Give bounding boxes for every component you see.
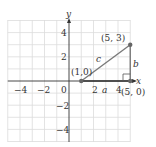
side-label-a: a	[102, 85, 107, 95]
y-tick-label: 4	[61, 28, 67, 38]
side-label-c: c	[96, 54, 101, 64]
point-5-0	[128, 79, 132, 83]
point-label-5-3: (5, 3)	[101, 33, 125, 43]
x-axis-label: x	[136, 76, 141, 86]
point-label-5-0: (5, 0)	[121, 87, 145, 97]
y-tick-label: −2	[56, 101, 69, 111]
coordinate-diagram: y x −4 −2 0 2 4 4 2 −2 −4 (1,0) (5, 3) (…	[0, 0, 156, 147]
point-1-0	[79, 79, 83, 83]
x-tick-label: 2	[92, 85, 98, 95]
y-tick-label: 2	[61, 52, 67, 62]
y-tick-label: −4	[56, 125, 70, 135]
x-tick-label: −4	[14, 85, 28, 95]
y-axis-label: y	[65, 9, 72, 19]
point-5-3	[128, 43, 132, 47]
x-tick-label: 0	[61, 85, 67, 95]
x-tick-label: −2	[37, 85, 50, 95]
side-label-b: b	[133, 59, 139, 69]
point-label-1-0: (1,0)	[71, 67, 92, 77]
